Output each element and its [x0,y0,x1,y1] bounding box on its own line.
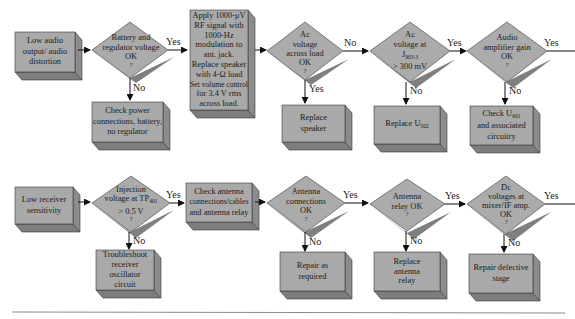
text-line: Replace [300,113,327,123]
no-label: No [133,83,145,93]
text-line: distortion [23,57,67,67]
text-line: circuit [103,280,147,290]
yes-label: Yes [166,190,181,200]
text-line: circuitry [477,132,526,142]
yes-label: Yes [343,190,358,200]
text-line: connections [286,197,326,207]
decision3-text: Ac voltage at J903-3 > 300 mV [382,28,438,74]
text-line: voltage at TP401 [105,194,158,207]
text-line: oscillator [103,270,147,280]
text-line: modulation to [190,40,248,50]
decision4-text: Audio amplifier gain OK ? [477,28,537,74]
text-line: Troubleshoot [103,250,147,260]
text-line: Dc [482,183,530,192]
subscript: 903-3 [405,54,418,60]
text-line: speaker [300,124,327,134]
no-label: No [509,86,521,96]
text-line: OK [482,210,530,219]
action3-text: Replace U502 [374,106,440,144]
text-line: stage [473,274,528,284]
action2-text: Replace speaker [282,105,345,142]
text-line: Check power [93,106,162,116]
decision-b1-text: Injection voltage at TP401 > 0.5 V ? [100,181,162,227]
setup-text: Apply 1000-μV RF signal with 1000-Hz mod… [190,10,248,110]
text-line: voltages at [482,192,530,201]
yes-label: Yes [544,38,559,48]
bottom-rule [12,312,565,313]
text-line: across load [286,49,323,58]
action-b3-text: Replace antenna relay [374,252,440,291]
text-main: voltage at TP [105,194,150,203]
text-main: Replace U [385,119,420,128]
no-label: No [410,236,422,246]
text-line: Ac [286,30,323,39]
text-line: output/ audio [23,47,67,57]
no-label: No [508,238,520,248]
text-line: Repair as [297,261,328,271]
text-line: Set volume control [190,80,248,90]
text-line: and antenna relay [189,208,248,218]
text-line: OK [286,58,323,67]
text-line: required [297,272,328,282]
text-line: Repair defective [473,263,528,273]
text-line: Check antenna [189,187,248,197]
text-line: antenna [394,267,421,277]
subscript: 502 [420,123,428,129]
text-line: J903-3 [393,50,427,63]
no-label: No [309,237,321,247]
text-line: relay OK [392,202,423,212]
text-line: Replace speaker [190,60,248,70]
text-line: ant. jack. [190,50,248,60]
decision1-text: Battery and regulator voltage OK ? [100,28,162,74]
yes-label: Yes [544,191,559,201]
no-label: No [410,86,422,96]
yes-label: Yes [445,191,460,201]
action-b1-text: Troubleshoot receiver oscillator circuit [96,250,154,290]
text-line: for 3.4 V rms [190,89,248,99]
text-line: ? [103,62,160,69]
no-label: No [133,236,145,246]
text-line: no regulator [93,127,162,137]
text-line: connections, battery, [93,117,162,127]
text-line: Injection [105,185,158,195]
text-line: Low audio [23,36,67,46]
text-line: RF signal with [190,21,248,31]
decision2-text: Ac voltage across load OK ? [278,26,332,78]
text-line: OK [286,206,326,216]
text-line: ? [286,216,326,223]
text-line: Check U601 [477,109,526,121]
yes-label: Yes [166,37,181,47]
text-line: voltage at [393,40,427,50]
decision-b4-text: Dc voltages at mixer/IF amp. OK ? [476,178,536,230]
text-line: OK [483,52,530,62]
text-line: Battery and [103,33,160,43]
text-line: Audio [483,33,530,43]
text-line: ? [483,62,530,69]
yes-label: Yes [447,38,462,48]
text-line: with 4-Ω load [190,70,248,80]
text-main: Check U [483,109,513,118]
text-line: ? [392,211,423,218]
subscript: 601 [512,113,520,119]
text-line: ? [105,216,158,223]
text-line: Antenna [392,192,423,202]
check-antenna-text: Check antenna connections/cables and ant… [186,183,252,222]
text-line: ? [482,219,530,225]
action4-text: Check U601 and associated circuitry [470,106,533,145]
text-line: 1000-Hz [190,31,248,41]
decision-b2-text: Antenna connections OK ? [277,181,335,229]
text-line: Apply 1000-μV [190,11,248,21]
text-line: receiver [103,260,147,270]
action1-text: Check power connections, battery, no reg… [92,102,163,142]
text-line: OK [103,52,160,62]
text-line: Antenna [286,187,326,197]
text-line: > 0.5 V [105,207,158,217]
text-line: ? [286,68,323,74]
start-text: Low audio output/ audio distortion [15,32,75,72]
text-line: relay [394,276,421,286]
decision-b3-text: Antenna relay OK ? [382,187,432,223]
text-line: regulator voltage [103,43,160,53]
no-label: No [344,38,356,48]
text-line: amplifier gain [483,43,530,53]
action-b4-text: Repair defective stage [469,254,533,293]
